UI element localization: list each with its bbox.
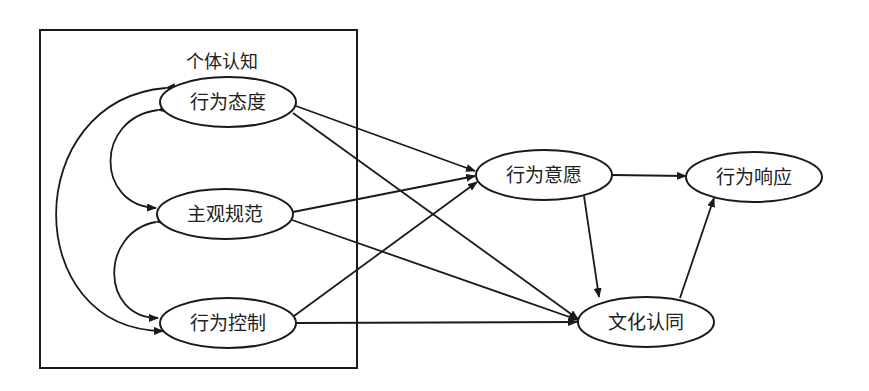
edge-intention-response [612, 175, 686, 176]
node-label: 行为意愿 [506, 164, 582, 186]
node-response: 行为响应 [686, 152, 822, 202]
node-identity: 文化认同 [578, 297, 714, 347]
edge-attitude-identity [293, 113, 578, 319]
correlation-attitude-norm [110, 110, 158, 208]
edge-norm-identity [292, 220, 578, 320]
group-label: 个体认知 [186, 51, 258, 72]
correlation-norm-control [114, 222, 158, 318]
node-norm: 主观规范 [157, 189, 293, 239]
correlation-attitude-control [56, 88, 166, 331]
edge-identity-response [680, 198, 714, 298]
edge-control-intention [294, 182, 477, 316]
edge-attitude-intention [296, 106, 475, 171]
node-label: 行为响应 [716, 166, 792, 188]
node-intention: 行为意愿 [476, 150, 612, 200]
diagram-canvas: 个体认知 行为态度 主观规范 行为控制 行为意愿 [0, 0, 869, 391]
node-label: 行为态度 [190, 91, 266, 113]
node-control: 行为控制 [160, 298, 296, 348]
diagram-svg: 个体认知 行为态度 主观规范 行为控制 行为意愿 [0, 0, 869, 391]
node-attitude: 行为态度 [160, 77, 296, 127]
edge-intention-identity [584, 196, 599, 297]
node-label: 行为控制 [190, 312, 266, 334]
edge-norm-intention [293, 176, 475, 212]
edge-control-identity [296, 322, 577, 323]
node-label: 主观规范 [187, 203, 263, 225]
node-label: 文化认同 [608, 311, 684, 333]
